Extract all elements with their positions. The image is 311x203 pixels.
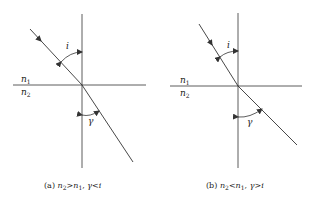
caption-b: (b) n2<n1, γ>i xyxy=(206,181,264,191)
caption-a: (a) n2>n1, γ<i xyxy=(44,181,101,191)
figure-a xyxy=(13,14,146,168)
medium-label-n2-b: n2 xyxy=(180,89,190,99)
angle-label-i-b: i xyxy=(227,41,230,50)
ray-direction-arrow-b xyxy=(209,40,212,45)
angle-label-gamma-a: γ xyxy=(88,117,93,126)
angle-arc-gamma-a xyxy=(82,111,99,116)
refraction-diagrams xyxy=(0,0,311,203)
figure-b xyxy=(170,13,302,168)
medium-label-n1-a: n1 xyxy=(21,75,31,85)
angle-arc-i-b xyxy=(220,51,238,57)
angle-arc-gamma-b xyxy=(238,109,262,117)
angle-label-i-a: i xyxy=(66,42,69,51)
ray-direction-arrow-a xyxy=(37,37,41,41)
refracted-ray-b xyxy=(238,86,297,145)
incident-ray-b xyxy=(199,24,238,86)
medium-label-n1-b: n1 xyxy=(180,76,190,86)
medium-label-n2-a: n2 xyxy=(21,88,31,98)
angle-label-gamma-b: γ xyxy=(247,118,252,127)
angle-arc-i-a xyxy=(61,52,82,62)
